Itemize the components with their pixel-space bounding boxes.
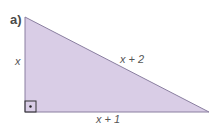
right-triangle (0, 0, 211, 126)
side-label-vertical: x (15, 55, 21, 67)
side-label-hypotenuse: x + 2 (120, 53, 144, 65)
side-label-horizontal: x + 1 (96, 113, 120, 125)
